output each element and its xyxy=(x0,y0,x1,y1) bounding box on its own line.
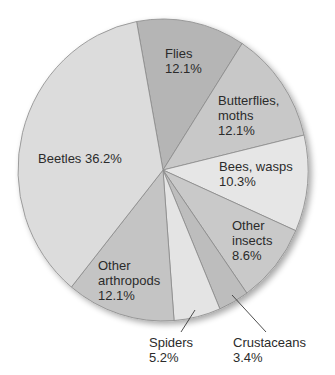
label-other-insects: Other insects 8.6% xyxy=(232,218,272,263)
label-butterflies-value: 12.1% xyxy=(218,123,279,138)
label-crustaceans-value: 3.4% xyxy=(233,350,306,365)
label-other-arthropods-name: Other xyxy=(98,258,160,273)
label-butterflies-name2: moths xyxy=(218,108,279,123)
label-other-arthropods: Other arthropods 12.1% xyxy=(98,258,160,303)
label-beetles: Beetles 36.2% xyxy=(38,151,122,166)
label-crustaceans-name: Crustaceans xyxy=(233,335,306,350)
label-flies-name: Flies xyxy=(165,46,202,61)
label-spiders: Spiders 5.2% xyxy=(149,335,193,365)
label-other-insects-value: 8.6% xyxy=(232,248,272,263)
label-bees-name: Bees, wasps xyxy=(219,159,293,174)
label-spiders-name: Spiders xyxy=(149,335,193,350)
label-flies: Flies 12.1% xyxy=(165,46,202,76)
label-spiders-value: 5.2% xyxy=(149,350,193,365)
label-butterflies: Butterflies, moths 12.1% xyxy=(218,93,279,138)
label-beetles: Beetles 36.2% xyxy=(38,151,122,166)
label-bees-value: 10.3% xyxy=(219,174,293,189)
label-other-insects-name2: insects xyxy=(232,233,272,248)
label-other-arthropods-value: 12.1% xyxy=(98,288,160,303)
label-bees: Bees, wasps 10.3% xyxy=(219,159,293,189)
label-other-insects-name: Other xyxy=(232,218,272,233)
cropped-title-strip xyxy=(0,0,335,4)
label-butterflies-name: Butterflies, xyxy=(218,93,279,108)
label-other-arthropods-name2: arthropods xyxy=(98,273,160,288)
label-flies-value: 12.1% xyxy=(165,61,202,76)
leader-line-crustaceans xyxy=(232,295,266,332)
label-crustaceans: Crustaceans 3.4% xyxy=(233,335,306,365)
